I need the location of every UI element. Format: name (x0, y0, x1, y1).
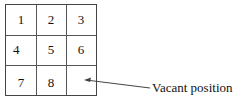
vacant-position-label: Vacant position (152, 80, 233, 96)
